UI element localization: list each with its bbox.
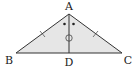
triangle-diagram: A B C D <box>0 0 134 72</box>
label-d: D <box>65 56 74 69</box>
angle-dot-right <box>72 23 75 26</box>
angle-dot-left <box>63 23 66 26</box>
label-a: A <box>64 0 74 13</box>
label-b: B <box>5 54 13 67</box>
label-c: C <box>124 54 132 67</box>
